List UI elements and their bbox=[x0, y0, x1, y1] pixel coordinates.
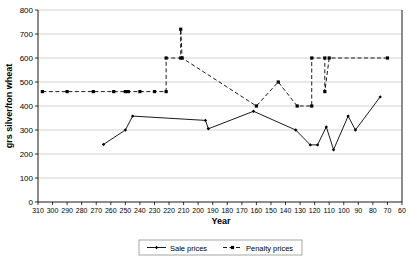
x-tick-label-280: 280 bbox=[76, 207, 88, 214]
x-tick-label-310: 310 bbox=[32, 207, 44, 214]
x-tick-label-260: 260 bbox=[105, 207, 117, 214]
data-point-1-6 bbox=[138, 90, 141, 93]
data-point-1-19 bbox=[323, 90, 326, 93]
x-tick-label-210: 210 bbox=[178, 207, 190, 214]
y-tick-label-800: 800 bbox=[20, 6, 34, 15]
x-axis-tick-labels: 3103002902802702602502402302202102001901… bbox=[32, 207, 406, 214]
chart-legend: Sale pricesPenalty prices bbox=[139, 240, 302, 255]
x-tick-label-80: 80 bbox=[369, 207, 377, 214]
data-point-0-11 bbox=[346, 114, 349, 117]
axes bbox=[35, 10, 402, 205]
x-tick-label-160: 160 bbox=[251, 207, 263, 214]
data-point-1-3 bbox=[112, 90, 115, 93]
data-point-1-11 bbox=[179, 28, 182, 31]
x-tick-label-220: 220 bbox=[163, 207, 175, 214]
x-tick-label-250: 250 bbox=[120, 207, 132, 214]
y-tick-label-500: 500 bbox=[20, 78, 34, 87]
x-tick-label-230: 230 bbox=[149, 207, 161, 214]
data-point-0-9 bbox=[325, 125, 328, 128]
data-point-0-2 bbox=[131, 114, 134, 117]
legend-label-sale-prices: Sale prices bbox=[170, 244, 207, 253]
y-tick-label-200: 200 bbox=[20, 150, 34, 159]
x-tick-label-180: 180 bbox=[221, 207, 233, 214]
x-tick-label-120: 120 bbox=[309, 207, 321, 214]
x-tick-label-190: 190 bbox=[207, 207, 219, 214]
data-point-1-16 bbox=[310, 104, 313, 107]
gridlines bbox=[38, 10, 402, 178]
y-tick-label-600: 600 bbox=[20, 54, 34, 63]
y-axis-title: grs silver/ton wheat bbox=[4, 64, 14, 149]
x-tick-label-290: 290 bbox=[61, 207, 73, 214]
data-point-1-20 bbox=[328, 56, 331, 59]
legend-marker-1 bbox=[231, 246, 234, 249]
x-tick-label-140: 140 bbox=[280, 207, 292, 214]
data-point-1-8 bbox=[165, 90, 168, 93]
y-tick-label-700: 700 bbox=[20, 30, 34, 39]
data-point-1-17 bbox=[310, 56, 313, 59]
data-point-0-3 bbox=[204, 119, 207, 122]
data-point-1-5 bbox=[127, 90, 130, 93]
data-point-1-1 bbox=[66, 90, 69, 93]
series-line-1 bbox=[42, 29, 387, 106]
x-tick-label-270: 270 bbox=[90, 207, 102, 214]
data-point-1-15 bbox=[296, 104, 299, 107]
legend-label-penalty-prices: Penalty prices bbox=[246, 244, 293, 253]
x-tick-label-100: 100 bbox=[338, 207, 350, 214]
chart-container: 0100200300400500600700800 31030029028027… bbox=[0, 0, 411, 261]
x-axis-title: Year bbox=[211, 216, 231, 226]
line-chart: 0100200300400500600700800 31030029028027… bbox=[0, 0, 411, 261]
data-point-1-2 bbox=[92, 90, 95, 93]
series-sale-prices bbox=[102, 95, 382, 151]
data-point-1-18 bbox=[323, 56, 326, 59]
data-point-0-8 bbox=[316, 143, 319, 146]
series-penalty-prices bbox=[41, 28, 389, 108]
x-tick-label-90: 90 bbox=[354, 207, 362, 214]
data-series bbox=[41, 28, 389, 152]
x-tick-label-110: 110 bbox=[324, 207, 335, 214]
x-tick-label-300: 300 bbox=[47, 207, 59, 214]
data-point-1-4 bbox=[124, 90, 127, 93]
y-tick-label-300: 300 bbox=[20, 126, 34, 135]
data-point-1-13 bbox=[255, 104, 258, 107]
data-point-1-14 bbox=[277, 80, 280, 83]
x-tick-label-60: 60 bbox=[398, 207, 406, 214]
y-tick-label-400: 400 bbox=[20, 102, 34, 111]
data-point-0-10 bbox=[332, 148, 335, 151]
y-tick-label-100: 100 bbox=[20, 174, 34, 183]
data-point-1-9 bbox=[165, 56, 168, 59]
data-point-0-5 bbox=[252, 110, 255, 113]
y-tick-label-0: 0 bbox=[29, 198, 34, 207]
data-point-1-12 bbox=[181, 56, 184, 59]
x-tick-label-170: 170 bbox=[236, 207, 248, 214]
x-tick-label-70: 70 bbox=[384, 207, 392, 214]
x-tick-label-150: 150 bbox=[265, 207, 277, 214]
data-point-1-0 bbox=[41, 90, 44, 93]
data-point-1-21 bbox=[386, 56, 389, 59]
x-tick-label-130: 130 bbox=[294, 207, 306, 214]
data-point-1-7 bbox=[153, 90, 156, 93]
x-tick-label-200: 200 bbox=[192, 207, 204, 214]
x-tick-label-240: 240 bbox=[134, 207, 146, 214]
series-line-0 bbox=[104, 97, 381, 150]
y-axis-tick-labels: 0100200300400500600700800 bbox=[20, 6, 34, 207]
